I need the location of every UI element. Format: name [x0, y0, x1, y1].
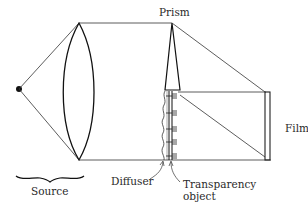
diffuser-label: Diffuser — [111, 176, 154, 187]
source-brace — [16, 176, 84, 182]
prism-label: Prism — [159, 7, 190, 18]
ray-source-to-lens-top — [19, 23, 79, 89]
prism — [165, 23, 180, 90]
transparency-label-line1: Transparency — [183, 179, 256, 190]
ray-diagonal-to-film-bottom — [180, 95, 265, 157]
ray-source-to-lens-bottom — [19, 89, 79, 160]
optical-setup-diagram — [0, 0, 308, 209]
ray-prism-to-film-top — [172, 23, 265, 92]
transparency-label-line2: object — [183, 191, 216, 202]
source-label: Source — [31, 186, 68, 197]
diffuser — [162, 91, 165, 160]
film-label: Film — [285, 123, 308, 134]
transparency-object — [166, 91, 177, 160]
film-plate — [265, 92, 270, 160]
lens — [63, 23, 94, 160]
